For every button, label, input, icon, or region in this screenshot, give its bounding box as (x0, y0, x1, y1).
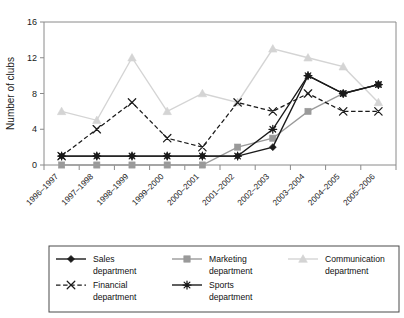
data-point-marker (235, 144, 241, 150)
data-point-marker (269, 125, 277, 133)
data-point-marker (128, 99, 135, 106)
x-tick-label: 2003–2004 (271, 172, 307, 208)
chart-container: 0481216 Number of clubs 1996–19971997–19… (0, 0, 404, 318)
x-axis-tick-labels: 1996–19971997–19981998–19991999–20002000… (25, 172, 377, 208)
series-financial-department (58, 90, 382, 160)
data-point-marker (129, 162, 135, 168)
data-point-marker (199, 143, 206, 150)
legend-label-line2: department (209, 266, 253, 276)
data-point-marker (269, 108, 276, 115)
chart-legend: SalesdepartmentMarketingdepartmentCommun… (49, 246, 399, 312)
x-tick-label: 2005–2006 (341, 172, 377, 208)
data-point-marker (57, 107, 65, 114)
series-line (62, 85, 379, 165)
y-tick-label: 4 (32, 124, 37, 134)
series-sales-department (58, 72, 382, 159)
data-point-marker (270, 135, 276, 141)
x-tick-label: 2002–2003 (236, 172, 272, 208)
data-point-marker (184, 256, 190, 262)
line-chart: 0481216 Number of clubs 1996–19971997–19… (0, 0, 404, 318)
data-point-marker (198, 89, 206, 96)
legend-label-line1: Financial (93, 280, 127, 290)
x-tick-label: 2001–2002 (201, 172, 237, 208)
series-marketing-department (59, 81, 382, 168)
data-point-marker (304, 90, 311, 97)
chart-series-group (57, 45, 382, 168)
legend-label-line2: department (93, 292, 137, 302)
x-tick-label: 2004–2005 (306, 172, 342, 208)
x-tick-label: 1999–2000 (130, 172, 166, 208)
data-point-marker (59, 162, 65, 168)
data-point-marker (93, 126, 100, 133)
y-tick-label: 12 (27, 53, 37, 63)
legend-label-line1: Communication (325, 254, 385, 264)
series-line (62, 49, 379, 121)
legend-label-line2: department (325, 266, 369, 276)
data-point-marker (269, 45, 277, 52)
data-point-marker (183, 281, 191, 289)
y-tick-label: 8 (32, 89, 37, 99)
legend-label-line2: department (209, 292, 253, 302)
legend-label-line2: department (93, 266, 137, 276)
y-axis-title: Number of clubs (5, 57, 16, 130)
x-tick-label: 1997–1998 (60, 172, 96, 208)
legend-label-line1: Sales (93, 254, 115, 264)
y-axis-tick-labels: 0481216 (27, 17, 37, 170)
series-line (62, 94, 379, 157)
data-point-marker (163, 107, 171, 114)
x-tick-label: 1998–1999 (95, 172, 131, 208)
y-tick-label: 0 (32, 160, 37, 170)
x-tick-label: 1996–1997 (25, 172, 61, 208)
data-point-marker (94, 162, 100, 168)
data-point-marker (305, 108, 311, 114)
x-tick-label: 2000–2001 (165, 172, 201, 208)
legend-label-line1: Sports (209, 280, 234, 290)
data-point-marker (199, 162, 205, 168)
data-point-marker (269, 144, 276, 151)
series-communication-department (57, 45, 382, 124)
series-line (62, 76, 379, 156)
series-sports-department (58, 72, 383, 160)
y-axis-label: Number of clubs (5, 57, 16, 130)
data-point-marker (164, 162, 170, 168)
data-point-marker (128, 54, 136, 61)
legend-label-line1: Marketing (209, 254, 247, 264)
y-tick-label: 16 (27, 17, 37, 27)
data-point-marker (164, 134, 171, 141)
